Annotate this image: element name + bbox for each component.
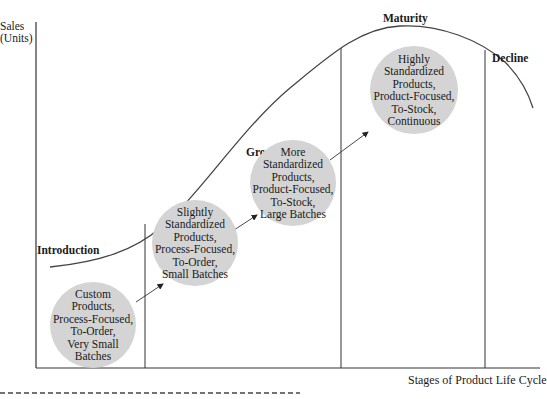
bubble-line: Products, xyxy=(53,300,133,313)
bubble-line: To-Stock, xyxy=(253,196,334,209)
stage-decline: Decline xyxy=(492,52,528,64)
cropped-caption xyxy=(150,0,350,4)
y-axis-label-line1: Sales xyxy=(0,20,33,32)
stage-introduction: Introduction xyxy=(37,244,99,256)
bubble-line: Process-Focused, xyxy=(155,243,235,256)
bubble-line: Product-Focused, xyxy=(253,183,334,196)
bubble-line: Continuous xyxy=(374,115,455,128)
stage-maturity: Maturity xyxy=(383,12,428,24)
bubble-line: Product-Focused, xyxy=(374,90,455,103)
bubble-line: Standardized xyxy=(374,65,455,78)
bubble-line: Standardized xyxy=(155,218,235,231)
y-axis-label-line2: (Units) xyxy=(0,32,33,44)
bubble-line: Highly xyxy=(374,53,455,66)
arrow-3 xyxy=(330,132,368,160)
bubble-maturity: Highly Standardized Products, Product-Fo… xyxy=(370,46,458,134)
bubble-line: Batches xyxy=(53,350,133,363)
bubble-growth-late: More Standardized Products, Product-Focu… xyxy=(250,140,336,226)
bubble-line: Standardized xyxy=(253,158,334,171)
bubble-line: Process-Focused, xyxy=(53,313,133,326)
bubble-growth-early: Slightly Standardized Products, Process-… xyxy=(152,200,238,286)
bubble-introduction: Custom Products, Process-Focused, To-Ord… xyxy=(50,282,136,368)
bubble-line: To-Stock, xyxy=(374,103,455,116)
bubble-line: To-Order, xyxy=(155,256,235,269)
bubble-line: Products, xyxy=(374,78,455,91)
y-axis-label: Sales (Units) xyxy=(0,20,33,44)
bubble-line: Products, xyxy=(253,171,334,184)
bubble-line: Small Batches xyxy=(155,268,235,281)
bubble-line: To-Order, xyxy=(53,325,133,338)
bubble-line: Products, xyxy=(155,231,235,244)
x-axis-label: Stages of Product Life Cycle xyxy=(408,374,547,386)
arrow-1 xyxy=(136,284,163,302)
bubble-line: Large Batches xyxy=(253,208,334,221)
bubble-line: Very Small xyxy=(53,338,133,351)
bubble-line: Custom xyxy=(53,288,133,301)
bubble-line: More xyxy=(253,146,334,159)
bubble-line: Slightly xyxy=(155,206,235,219)
